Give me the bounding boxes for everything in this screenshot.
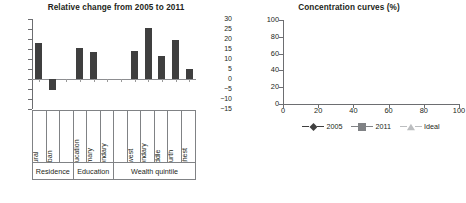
bar [131, 51, 138, 79]
category-cell: Fourth [168, 111, 182, 162]
bar-y-tick-label: 30 [206, 15, 232, 22]
category-table: RuralUrbanNo educationPrimarySecondaryLo… [32, 110, 196, 180]
bar [145, 28, 152, 79]
bar [90, 52, 97, 79]
group-label: Education [77, 167, 109, 176]
category-cell: Secondary [141, 111, 155, 162]
line-x-tick-label: 80 [412, 107, 436, 114]
group-label-cell: Education [74, 163, 115, 179]
line-x-tick-label: 40 [341, 107, 365, 114]
category-label: Secondary [141, 144, 147, 163]
category-label: No education [74, 140, 80, 163]
bar-x-tick-mark [39, 79, 40, 82]
bar-y-tick-label: 25 [206, 25, 232, 32]
category-label: Primary [87, 148, 93, 162]
line-x-tick-mark [283, 104, 284, 108]
line-x-tick-label: 20 [306, 107, 330, 114]
legend-item-Ideal[interactable]: Ideal [400, 122, 440, 131]
square-marker-icon [351, 122, 373, 131]
category-cell-spacer [60, 111, 74, 162]
line-x-tick-label: 0 [271, 107, 295, 114]
bar-chart-plot-area [32, 19, 196, 109]
line-x-tick-mark [389, 104, 390, 108]
legend-label: 2005 [326, 122, 342, 131]
legend-label: 2011 [375, 122, 390, 131]
bar-x-tick-mark [135, 79, 136, 82]
bar [172, 40, 179, 79]
category-label: Fourth [168, 150, 174, 162]
bar [49, 79, 56, 90]
bar-y-tick-label: −15 [206, 105, 232, 112]
bar-x-tick-mark [80, 79, 81, 82]
line-chart-plot-area [283, 20, 459, 104]
category-cell: Middle [155, 111, 169, 162]
figure-container: Relative change from 2005 to 2011 302520… [0, 0, 466, 203]
line-x-tick-mark [353, 104, 354, 108]
line-x-tick-mark [459, 104, 460, 108]
bar-x-tick-mark [66, 79, 67, 82]
bar-chart-panel: Relative change from 2005 to 2011 302520… [0, 0, 232, 203]
line-x-tick-mark [318, 104, 319, 108]
group-label-cell: Wealth quintile [114, 163, 195, 179]
category-cell: Highest [182, 111, 195, 162]
line-y-tick-label: 100 [257, 16, 279, 23]
bar-y-tick-label: 15 [206, 45, 232, 52]
line-y-tick-label: 40 [257, 66, 279, 73]
category-label: Lowest [128, 149, 134, 162]
group-label: Residence [36, 167, 70, 176]
bar [158, 56, 165, 79]
category-label: Rural [33, 152, 39, 162]
diamond-marker-icon [302, 122, 324, 131]
bar-x-tick-mark [148, 79, 149, 82]
legend-item-2005[interactable]: 2005 [302, 122, 342, 131]
bar-y-tick-label: −5 [206, 85, 232, 92]
line-y-tick-label: 20 [257, 83, 279, 90]
bar-y-tick-label: 0 [206, 75, 232, 82]
bar-x-tick-mark [162, 79, 163, 82]
category-cell: No education [74, 111, 88, 162]
bar-x-tick-mark [94, 79, 95, 82]
category-cell-spacer [114, 111, 128, 162]
line-y-tick-label: 60 [257, 50, 279, 57]
line-chart-title: Concentration curves (%) [232, 3, 466, 12]
category-cell: Secondary [101, 111, 115, 162]
bar-y-tick-label: −10 [206, 95, 232, 102]
bar-chart-title: Relative change from 2005 to 2011 [0, 3, 232, 12]
bar [186, 69, 193, 79]
line-x-tick-label: 60 [377, 107, 401, 114]
group-label-cell: Residence [33, 163, 74, 179]
line-x-tick-label: 100 [447, 107, 466, 114]
category-cell: Urban [47, 111, 61, 162]
bar [76, 48, 83, 79]
triangle-marker-icon [400, 122, 422, 131]
bar-x-tick-mark [189, 79, 190, 82]
bar-y-tick-label: 10 [206, 55, 232, 62]
line-x-tick-mark [424, 104, 425, 108]
category-label: Highest [182, 148, 189, 162]
category-cell: Lowest [128, 111, 142, 162]
line-chart-legend: 20052011Ideal [283, 122, 459, 131]
category-label: Secondary [101, 144, 107, 163]
bar-y-tick-label: 20 [206, 35, 232, 42]
category-cell: Primary [87, 111, 101, 162]
bar-x-tick-mark [107, 79, 108, 82]
category-label-row: RuralUrbanNo educationPrimarySecondaryLo… [33, 111, 195, 162]
line-chart-x-axis-line [283, 104, 459, 105]
legend-label: Ideal [424, 122, 440, 131]
bar-x-tick-mark [121, 79, 122, 82]
legend-item-2011[interactable]: 2011 [351, 122, 390, 131]
group-label-row: ResidenceEducationWealth quintile [33, 162, 195, 179]
category-label: Urban [47, 151, 53, 163]
category-cell: Rural [33, 111, 47, 162]
bar [35, 43, 42, 79]
group-label: Wealth quintile [131, 167, 178, 176]
category-label: Middle [155, 150, 161, 162]
bar-y-tick-label: 5 [206, 65, 232, 72]
line-y-tick-label: 80 [257, 33, 279, 40]
bar-x-tick-mark [176, 79, 177, 82]
